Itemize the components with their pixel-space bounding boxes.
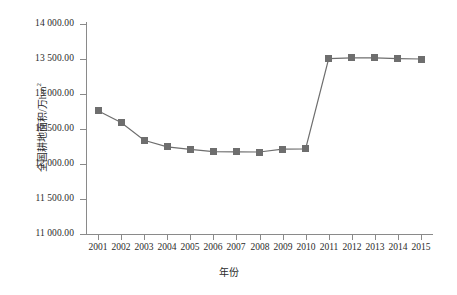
y-axis-title-superscript: 2: [35, 83, 43, 87]
data-point-marker: [418, 56, 425, 63]
data-point-marker: [302, 145, 309, 152]
data-point-marker: [325, 55, 332, 62]
data-point-marker: [118, 119, 125, 126]
data-point-marker: [141, 137, 148, 144]
y-axis-title-text: 全国耕地面积/万hm: [37, 86, 48, 172]
data-point-marker: [256, 149, 263, 156]
data-point-marker: [233, 148, 240, 155]
data-point-marker: [187, 146, 194, 153]
data-point-marker: [210, 148, 217, 155]
series-line: [0, 0, 457, 295]
data-point-marker: [95, 107, 102, 114]
data-point-marker: [279, 146, 286, 153]
data-point-marker: [394, 55, 401, 62]
data-point-marker: [371, 54, 378, 61]
data-point-marker: [164, 143, 171, 150]
data-point-marker: [348, 54, 355, 61]
chart-figure: 11 000.0011 500.0012 000.0012 500.0013 0…: [0, 0, 457, 295]
y-axis-title: 全国耕地面积/万hm2: [34, 48, 49, 208]
x-axis-title: 年份: [0, 264, 457, 279]
